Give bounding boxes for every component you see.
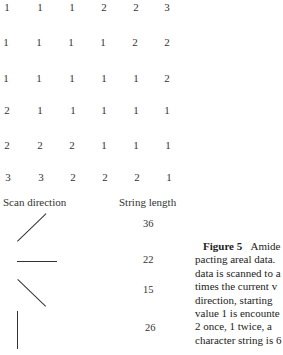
grid-cell: 1: [67, 104, 79, 116]
caption-line: direction, starting: [195, 294, 283, 307]
grid-cell: 1: [65, 36, 77, 48]
grid-cell: 1: [163, 171, 175, 183]
diagonal-up-right-icon: [17, 213, 46, 242]
grid-cell: 1: [161, 104, 173, 116]
string-length-header: String length: [119, 196, 176, 209]
horizontal-line-icon: [17, 261, 57, 262]
diagonal-down-right-icon: [17, 279, 46, 307]
grid-cell: 1: [66, 72, 78, 84]
grid-cell: 1: [33, 36, 45, 48]
grid-cell: 1: [97, 36, 109, 48]
grid-cell: 1: [130, 72, 142, 84]
caption-line: times the current v: [195, 280, 283, 293]
grid-cell: 1: [98, 72, 110, 84]
caption-line: character string is 6: [195, 334, 283, 347]
grid-cell: 1: [34, 1, 46, 13]
grid-cell: 1: [0, 72, 12, 84]
grid-cell: 3: [35, 171, 47, 183]
caption-line: 2 once, 1 twice, a: [195, 320, 283, 333]
grid-cell: 1: [162, 139, 174, 151]
string-length-value: 22: [143, 254, 154, 266]
grid-cell: 1: [98, 104, 110, 116]
grid-cell: 2: [98, 1, 110, 13]
grid-cell: 2: [129, 36, 141, 48]
scan-direction-header: Scan direction: [3, 196, 66, 209]
grid-cell: 2: [131, 171, 143, 183]
grid-cell: 2: [99, 171, 111, 183]
string-length-value: 36: [143, 218, 154, 230]
grid-cell: 2: [1, 139, 13, 151]
vertical-line-icon: [17, 311, 18, 349]
string-length-value: 15: [143, 284, 154, 296]
grid-cell: 2: [130, 1, 142, 13]
grid-cell: 1: [130, 139, 142, 151]
grid-cell: 1: [1, 1, 13, 13]
grid-cell: 2: [66, 139, 78, 151]
grid-cell: 2: [67, 171, 79, 183]
caption-line: data is scanned to a: [195, 267, 283, 280]
grid-cell: 1: [66, 1, 78, 13]
caption-line: Figure 5 Amide: [195, 240, 283, 253]
grid-cell: 2: [1, 104, 13, 116]
grid-cell: 3: [2, 171, 14, 183]
grid-cell: 1: [130, 104, 142, 116]
caption-line: value 1 is encounte: [195, 307, 283, 320]
grid-cell: 2: [161, 36, 173, 48]
grid-cell: 1: [0, 36, 12, 48]
caption-line: pacting areal data.: [195, 253, 283, 266]
grid-cell: 3: [161, 1, 173, 13]
figure-caption: Figure 5 Amide pacting areal data. data …: [195, 240, 283, 347]
grid-cell: 2: [34, 139, 46, 151]
figure-label: Figure 5: [203, 240, 242, 252]
string-length-value: 26: [145, 322, 156, 334]
grid-cell: 1: [33, 72, 45, 84]
grid-cell: 1: [34, 104, 46, 116]
grid-cell: 1: [98, 139, 110, 151]
grid-cell: 2: [161, 72, 173, 84]
caption-text: Amide: [250, 240, 280, 252]
